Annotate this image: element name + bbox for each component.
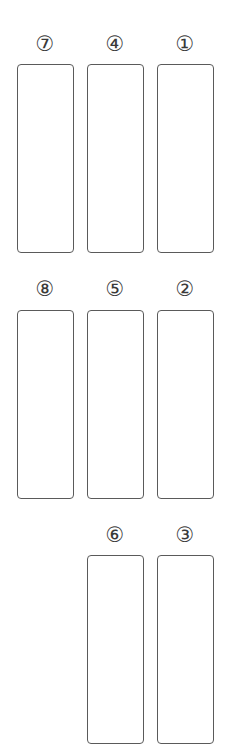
- slot-5[interactable]: [87, 310, 144, 499]
- slot-label-6: ⑥: [103, 523, 127, 547]
- slot-label-5: ⑤: [103, 277, 127, 301]
- slot-2[interactable]: [157, 310, 214, 499]
- slot-8[interactable]: [17, 310, 74, 499]
- slot-1[interactable]: [157, 64, 214, 253]
- slot-label-3: ③: [173, 523, 197, 547]
- slot-label-7: ⑦: [33, 32, 57, 56]
- slot-7[interactable]: [17, 64, 74, 253]
- slot-label-8: ⑧: [33, 277, 57, 301]
- slot-6[interactable]: [87, 555, 144, 744]
- slot-4[interactable]: [87, 64, 144, 253]
- slot-3[interactable]: [157, 555, 214, 744]
- slot-label-4: ④: [103, 32, 127, 56]
- slot-label-2: ②: [173, 277, 197, 301]
- slot-label-1: ①: [173, 32, 197, 56]
